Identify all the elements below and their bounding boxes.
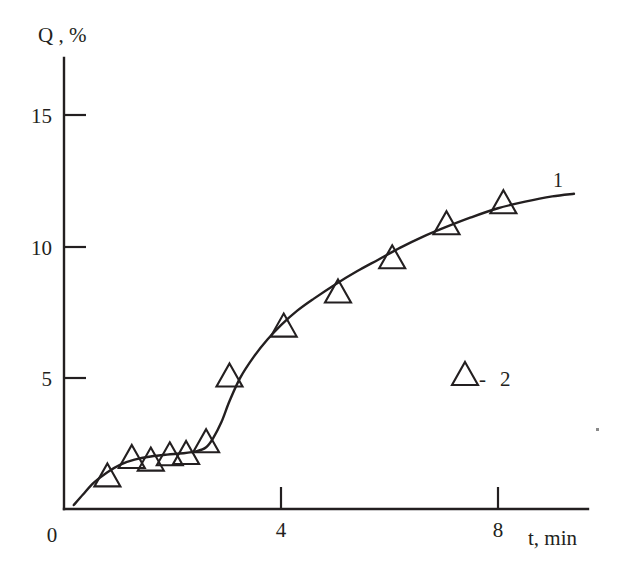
x-tick-label-4: 4 — [276, 518, 287, 542]
y-tick-label-10: 10 — [31, 236, 52, 260]
legend: - 2 — [452, 362, 511, 391]
origin-label: 0 — [47, 523, 58, 547]
chart-figure: 15 10 5 0 4 8 Q , % t, min 1 - 2 — [0, 0, 623, 562]
legend-open-triangle-icon — [452, 362, 478, 385]
legend-separator: - — [479, 367, 486, 391]
curve-label-1: 1 — [553, 169, 563, 191]
y-axis-title: Q , % — [38, 23, 86, 47]
legend-entry-label: 2 — [500, 367, 511, 391]
y-tick-label-5: 5 — [42, 367, 53, 391]
data-point-marker — [490, 190, 516, 213]
chart-canvas: 15 10 5 0 4 8 Q , % t, min 1 - 2 — [0, 0, 623, 562]
x-tick-label-8: 8 — [493, 518, 504, 542]
data-point-marker — [217, 364, 243, 387]
axes-group — [64, 58, 588, 509]
x-axis-title: t, min — [528, 526, 578, 550]
data-markers-series-2 — [94, 190, 516, 486]
data-point-marker — [325, 280, 351, 303]
y-axis-ticks — [64, 115, 86, 378]
x-axis-ticks — [281, 487, 498, 509]
print-speck — [596, 428, 599, 431]
data-point-marker — [271, 314, 297, 337]
y-tick-label-15: 15 — [31, 104, 52, 128]
